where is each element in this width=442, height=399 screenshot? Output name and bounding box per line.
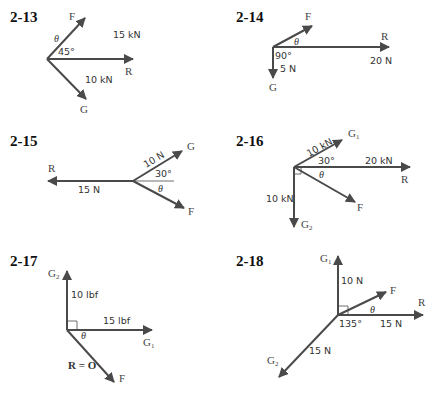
- problem-number: 2-16: [236, 133, 264, 149]
- label-F: F: [357, 201, 363, 213]
- right-angle-marker: [67, 321, 77, 330]
- label-magnitude-G2: 15 N: [309, 345, 331, 356]
- label-G: G: [269, 81, 277, 93]
- label-magnitude-R: 15 kN: [113, 29, 141, 40]
- label-magnitude-G1: 15 lbf: [103, 315, 131, 326]
- problem-number: 2-15: [10, 133, 38, 149]
- label-F: F: [305, 10, 311, 22]
- problem-2-16: 2-16 10 kN G1 30° 20 kN R θ F 10 kN G2: [236, 127, 410, 232]
- vector-G-arrow-icon: [47, 59, 86, 99]
- label-magnitude-R: 15 N: [78, 184, 100, 195]
- label-F: F: [188, 205, 194, 217]
- label-theta: θ: [81, 330, 86, 341]
- label-angle: 135°: [339, 318, 362, 329]
- label-magnitude-R: 20 N: [370, 55, 392, 66]
- problem-2-17: 2-17 G2 10 lbf 15 lbf θ G1 R = O F: [10, 253, 155, 384]
- problem-2-14: 2-14 F θ 90° 5 N R 20 N G: [236, 9, 392, 93]
- label-G2: G2: [267, 354, 279, 368]
- label-angle: 30°: [155, 168, 172, 179]
- label-angle: 90°: [275, 50, 292, 61]
- label-R: R: [381, 30, 389, 42]
- label-theta: θ: [370, 304, 375, 315]
- label-G: G: [80, 103, 88, 115]
- problem-2-15: 2-15 R 15 N 10 N 30° θ G F: [10, 133, 195, 217]
- label-G: G: [187, 140, 195, 152]
- label-G2: G2: [48, 267, 60, 281]
- label-F: F: [390, 284, 396, 296]
- label-R: R: [401, 173, 409, 185]
- label-magnitude-G: 10 kN: [85, 74, 113, 85]
- label-magnitude-R: 15 N: [380, 318, 402, 329]
- label-F: F: [119, 372, 125, 384]
- label-theta: θ: [158, 183, 163, 194]
- vector-F-arrow-icon: [338, 292, 386, 315]
- vector-F-arrow-icon: [67, 330, 114, 382]
- label-theta: θ: [319, 169, 324, 180]
- vector-F-arrow-icon: [294, 167, 355, 202]
- problem-number: 2-13: [10, 9, 38, 25]
- label-magnitude-G: 10 N: [141, 149, 166, 170]
- label-magnitude-G1: 10 N: [341, 275, 363, 286]
- label-theta: θ: [294, 36, 299, 47]
- label-G2: G2: [301, 218, 313, 232]
- problem-number: 2-14: [236, 9, 264, 25]
- vector-F-arrow-icon: [273, 26, 312, 47]
- label-R: R: [125, 65, 133, 77]
- label-angle: 45°: [58, 46, 75, 57]
- problem-2-18: 2-18 G1 10 N F R θ 135° 15 N 15 N G2: [236, 252, 426, 377]
- problem-2-13: 2-13 F θ 45° 15 kN R 10 kN G: [10, 9, 141, 115]
- problem-number: 2-17: [10, 253, 38, 269]
- label-R: R: [418, 296, 426, 308]
- label-angle: 30°: [318, 155, 335, 166]
- label-resultant: R = O: [68, 359, 97, 371]
- label-G1: G1: [348, 127, 360, 141]
- label-G1: G1: [320, 252, 332, 266]
- problem-number: 2-18: [236, 253, 264, 269]
- label-G1: G1: [143, 336, 155, 350]
- force-vector-diagrams: 2-13 F θ 45° 15 kN R 10 kN G 2-14 F θ 90…: [0, 0, 442, 399]
- label-magnitude-G: 5 N: [280, 63, 296, 74]
- label-theta: θ: [54, 33, 59, 44]
- label-R: R: [48, 162, 56, 174]
- label-magnitude-G2: 10 kN: [266, 193, 294, 204]
- label-magnitude-G2: 10 lbf: [71, 289, 99, 300]
- label-F: F: [69, 10, 75, 22]
- label-magnitude-R: 20 kN: [365, 155, 393, 166]
